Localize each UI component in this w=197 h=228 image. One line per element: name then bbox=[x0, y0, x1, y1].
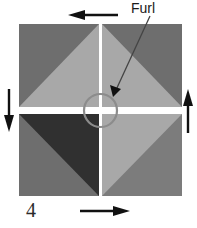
quadrant-bottom-right bbox=[102, 114, 182, 196]
furl-diagram: Furl 4 bbox=[0, 0, 197, 228]
quadrant-bottom-left bbox=[19, 114, 99, 196]
furl-label: Furl bbox=[131, 1, 155, 15]
quadrant-top-left bbox=[19, 24, 99, 107]
step-number-label: 4 bbox=[26, 200, 36, 220]
diagram-canvas bbox=[0, 0, 197, 228]
